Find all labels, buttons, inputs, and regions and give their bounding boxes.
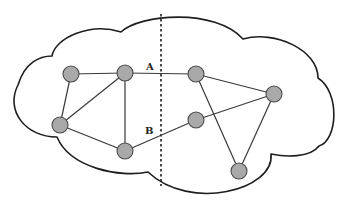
- node-n4: [117, 143, 133, 159]
- node-n1: [63, 66, 79, 82]
- node-n7: [266, 86, 282, 102]
- node-n8: [231, 163, 247, 179]
- node-n3: [52, 117, 68, 133]
- node-n2: [117, 65, 133, 81]
- cloud-outline: [14, 17, 334, 193]
- node-n5: [188, 66, 204, 82]
- edge-label-a: A: [145, 61, 154, 72]
- network-diagram: AB: [0, 0, 350, 212]
- node-n6: [188, 112, 204, 128]
- edge-label-b: B: [145, 125, 153, 136]
